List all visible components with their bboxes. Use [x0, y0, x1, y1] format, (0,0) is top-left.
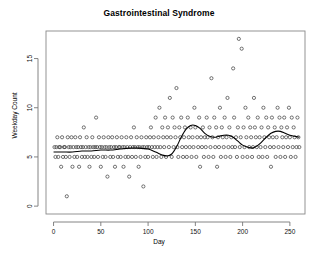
data-point [185, 155, 188, 158]
data-point [60, 165, 63, 168]
data-point [219, 155, 222, 158]
data-point [200, 146, 203, 149]
data-point [91, 136, 94, 139]
data-point [198, 165, 201, 168]
x-tick-label: 100 [143, 228, 154, 235]
data-point [273, 126, 276, 129]
data-point [161, 126, 164, 129]
data-point [220, 126, 223, 129]
data-point [187, 136, 190, 139]
data-point [111, 136, 114, 139]
data-point [289, 155, 292, 158]
data-point [218, 106, 221, 109]
data-point [85, 136, 88, 139]
x-tick-label: 150 [190, 228, 201, 235]
data-point [71, 165, 74, 168]
data-point [65, 195, 68, 198]
data-point [82, 126, 85, 129]
data-point [135, 136, 138, 139]
data-point [233, 116, 236, 119]
data-point [285, 126, 288, 129]
data-point [242, 126, 245, 129]
data-point [68, 155, 71, 158]
data-point [129, 136, 132, 139]
data-point [244, 106, 247, 109]
data-point [215, 126, 218, 129]
data-point [74, 136, 77, 139]
data-point [222, 146, 225, 149]
data-point [278, 116, 281, 119]
data-point [128, 175, 131, 178]
data-point [256, 116, 259, 119]
data-point [77, 165, 80, 168]
data-point [66, 136, 69, 139]
data-point [151, 155, 154, 158]
data-point [254, 136, 257, 139]
data-point [208, 126, 211, 129]
data-point [152, 136, 155, 139]
data-point [190, 155, 193, 158]
x-axis-label: Day [0, 238, 318, 245]
data-point [247, 116, 250, 119]
data-point [217, 146, 220, 149]
data-point [252, 96, 255, 99]
data-point [70, 136, 73, 139]
data-point [186, 116, 189, 119]
data-point [261, 155, 264, 158]
data-point [172, 146, 175, 149]
data-point [193, 106, 196, 109]
y-axis: 051015 [27, 55, 39, 208]
data-point [56, 136, 59, 139]
data-point [99, 165, 102, 168]
x-tick-label: 0 [52, 228, 56, 235]
data-point [229, 155, 232, 158]
data-point [139, 155, 142, 158]
data-point [158, 106, 161, 109]
data-point [191, 136, 194, 139]
data-point [239, 136, 242, 139]
data-point [235, 155, 238, 158]
data-point [214, 146, 217, 149]
data-point [284, 155, 287, 158]
data-point [113, 165, 116, 168]
data-point [167, 146, 170, 149]
data-point [223, 116, 226, 119]
data-point [166, 126, 169, 129]
data-point [134, 155, 137, 158]
data-point [169, 136, 172, 139]
data-point [259, 146, 262, 149]
x-tick-label: 250 [284, 228, 295, 235]
data-point [175, 86, 178, 89]
data-point [155, 155, 158, 158]
loess-smoother-path [54, 125, 300, 156]
data-point [199, 136, 202, 139]
data-point [130, 155, 133, 158]
data-point [227, 146, 230, 149]
data-point [165, 136, 168, 139]
y-axis-label: Weekday Count [11, 76, 18, 156]
data-point [173, 126, 176, 129]
data-point [292, 126, 295, 129]
data-point [160, 155, 163, 158]
data-point [213, 116, 216, 119]
data-point [241, 155, 244, 158]
data-point [120, 136, 123, 139]
data-point [162, 136, 165, 139]
data-point [137, 165, 140, 168]
x-axis: 050100150200250 [52, 222, 296, 235]
data-point [287, 106, 290, 109]
data-point [280, 126, 283, 129]
data-point [177, 155, 180, 158]
data-point [196, 136, 199, 139]
data-point [207, 155, 210, 158]
data-point [253, 126, 256, 129]
data-point [275, 136, 278, 139]
data-point [195, 155, 198, 158]
data-point [164, 116, 167, 119]
data-point [168, 96, 171, 99]
data-point [267, 126, 270, 129]
data-point [210, 77, 213, 80]
data-point [260, 126, 263, 129]
chart-container: Gastrointestinal Syndrome 05010015020025… [0, 0, 318, 260]
data-point [228, 126, 231, 129]
